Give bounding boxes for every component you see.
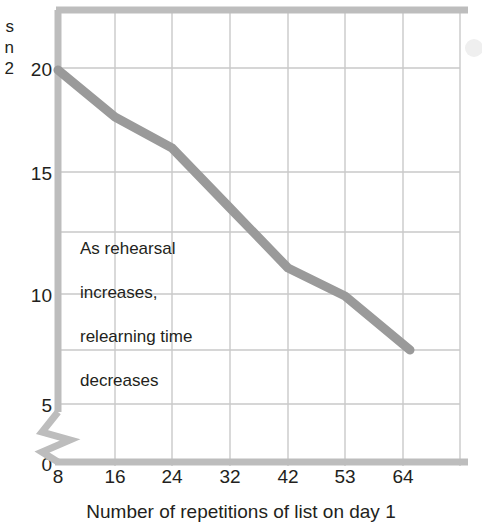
annotation-line-1: As rehearsal: [80, 238, 192, 260]
x-tick-label-16: 16: [85, 466, 145, 488]
page-artifact: [465, 39, 482, 57]
axis-break-zigzag: [42, 412, 70, 462]
x-tick-label-53: 53: [315, 466, 375, 488]
annotation-line-4: decreases: [80, 370, 192, 392]
x-axis-tick-labels: 8 16 24 32 42 53 64: [0, 466, 482, 494]
annotation-line-3: relearning time: [80, 326, 192, 348]
relearning-time-line-chart: s n 2 20 15 10 5 0: [0, 0, 482, 531]
x-tick-label-64: 64: [373, 466, 433, 488]
chart-annotation: As rehearsal increases, relearning time …: [80, 216, 192, 414]
x-tick-label-24: 24: [142, 466, 202, 488]
annotation-line-2: increases,: [80, 282, 192, 304]
x-tick-label-32: 32: [200, 466, 260, 488]
x-tick-label-8: 8: [28, 466, 88, 488]
x-tick-label-42: 42: [258, 466, 318, 488]
plot-area: [0, 0, 482, 531]
x-axis-title: Number of repetitions of list on day 1: [0, 500, 482, 524]
